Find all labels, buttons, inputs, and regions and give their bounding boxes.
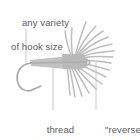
label-hook-size-line1: any variety — [22, 17, 69, 28]
hook-point — [34, 86, 41, 89]
hackle-fiber — [71, 28, 73, 58]
label-reverse-hackle-line1: "reverse" — [105, 124, 140, 135]
label-hook-size: any variety of hook size — [11, 5, 69, 77]
label-hook-size-line2: of hook size — [11, 41, 69, 53]
label-thread-body: thread body — [33, 112, 77, 140]
label-thread-body-line1: thread — [47, 124, 75, 135]
label-reverse-hackle: "reverse" hackle — [94, 112, 140, 140]
fly-tying-diagram: any variety of hook size thread body "re… — [0, 0, 140, 140]
